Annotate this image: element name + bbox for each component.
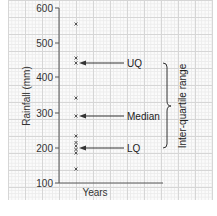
y-ticks xyxy=(55,8,59,183)
arrow-left-icon xyxy=(79,114,86,119)
iqr-label: Inter-quartile range xyxy=(177,63,188,148)
y-tick-labels: 600 500 400 300 200 100 xyxy=(36,3,53,189)
y-axis-title: Rainfall (mm) xyxy=(21,66,32,125)
lq-label: LQ xyxy=(127,143,141,154)
point-190 xyxy=(75,152,78,155)
tick-label-300: 300 xyxy=(36,108,53,119)
point-340 xyxy=(75,97,78,100)
data-points xyxy=(75,23,78,171)
tick-label-500: 500 xyxy=(36,38,53,49)
tick-label-600: 600 xyxy=(36,3,53,14)
arrow-left-icon xyxy=(79,146,86,151)
point-550 xyxy=(75,23,78,26)
uq-label: UQ xyxy=(127,58,142,69)
rainfall-chart: 600 500 400 300 200 100 Rainfall (mm) Ye… xyxy=(0,0,217,216)
point-460 xyxy=(75,57,78,60)
uq-annotation: UQ xyxy=(79,58,142,69)
point-215 xyxy=(75,141,78,144)
tick-label-200: 200 xyxy=(36,143,53,154)
curly-brace-icon xyxy=(163,63,171,148)
median-label: Median xyxy=(127,111,160,122)
point-445 xyxy=(75,62,78,65)
lq-annotation: LQ xyxy=(79,143,141,154)
point-200 xyxy=(75,148,78,151)
median-annotation: Median xyxy=(79,111,160,122)
x-axis-title: Years xyxy=(82,187,107,198)
point-205 xyxy=(75,145,78,148)
arrow-left-icon xyxy=(79,61,86,66)
tick-label-100: 100 xyxy=(36,178,53,189)
tick-label-400: 400 xyxy=(36,72,53,83)
point-230 xyxy=(75,135,78,138)
point-290 xyxy=(75,115,78,118)
point-140 xyxy=(75,168,78,171)
